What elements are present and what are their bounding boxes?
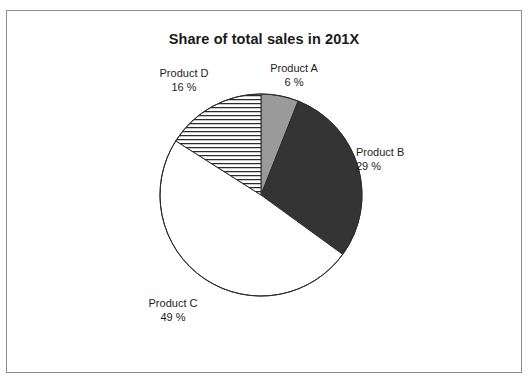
figure-frame: Share of total sales in 201X Product A 6… — [6, 10, 522, 373]
pie-label-product-d: Product D 16 % — [139, 66, 229, 94]
pie-label-product-b: Product B 29 % — [356, 145, 452, 173]
pie-label-product-c-name: Product C — [149, 297, 198, 309]
pie-label-product-a-value: 6 % — [254, 75, 334, 89]
pie-label-product-b-value: 29 % — [356, 159, 452, 173]
pie-label-product-d-name: Product D — [160, 67, 209, 79]
pie-label-product-a: Product A 6 % — [254, 61, 334, 89]
pie-label-product-c: Product C 49 % — [125, 296, 221, 324]
pie-chart: Product A 6 % Product B 29 % Product C 4… — [7, 11, 523, 374]
pie-label-product-c-value: 49 % — [125, 310, 221, 324]
pie-label-product-d-value: 16 % — [139, 80, 229, 94]
pie-label-product-b-name: Product B — [356, 146, 404, 158]
pie-label-product-a-name: Product A — [270, 62, 318, 74]
